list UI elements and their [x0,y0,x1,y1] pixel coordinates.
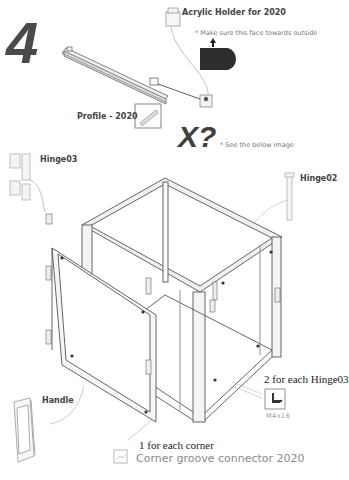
acrylic-holder-label: Acrylic Holder for 2020 [182,8,286,17]
step-number: 4 [6,14,36,72]
hinge02-illustration [285,173,294,220]
hinge03-label: Hinge03 [40,155,77,164]
handle-illustration [14,398,35,462]
hinge03-illustration [10,154,30,200]
per-hinge-quantity: 2 for each Hinge03 [264,373,349,385]
see-below-note: * See the below image [220,141,294,149]
variable-count-marker: X? [178,122,216,152]
profile-label: Profile - 2020 [77,112,138,121]
hinge02-label: Hinge02 [300,174,337,183]
profile-bar-illustration [62,47,200,104]
holder-face-orientation [200,38,236,70]
handle-label: Handle [42,396,74,405]
holder-on-profile [200,95,212,107]
face-orientation-note: * Make sure this face towards outside [195,29,317,37]
acrylic-holder-illustration [166,8,180,26]
corner-connector-label: Corner groove connector 2020 [136,452,305,465]
screw-spec-label: M4x16 [266,412,290,420]
per-corner-quantity: 1 for each corner [139,439,214,451]
